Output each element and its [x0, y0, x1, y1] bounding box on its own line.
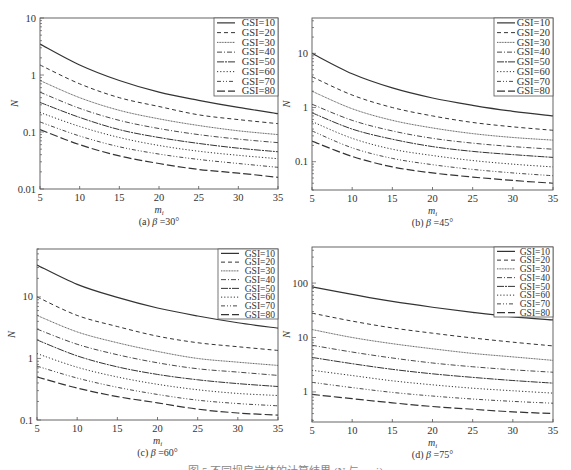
x-tick-label: 5 — [309, 425, 314, 436]
legend: GSI=10GSI=20GSI=30GSI=40GSI=50GSI=60GSI=… — [494, 17, 553, 96]
series-line: GSI=50 — [312, 357, 553, 383]
x-tick-label: 15 — [114, 192, 125, 203]
series-line: GSI=30 — [312, 330, 553, 361]
x-tick-label: 10 — [74, 192, 85, 203]
x-tick-label: 30 — [233, 192, 244, 203]
subplot-caption: (d) β =75° — [412, 449, 453, 461]
x-tick-label: 15 — [112, 423, 123, 434]
x-tick-label: 15 — [387, 193, 398, 204]
y-tick-label: 0.1 — [23, 127, 36, 138]
x-tick-label: 10 — [347, 425, 358, 436]
x-tick-label: 25 — [467, 193, 478, 204]
y-tick-label: 0.01 — [18, 184, 36, 195]
legend-label: GSI=80 — [520, 307, 551, 318]
legend-label: GSI=80 — [245, 309, 276, 320]
series-line: GSI=50 — [40, 102, 278, 151]
legend: GSI=10GSI=20GSI=30GSI=40GSI=50GSI=60GSI=… — [218, 248, 278, 320]
x-tick-label: 5 — [37, 192, 42, 203]
x-tick-label: 5 — [34, 423, 39, 434]
subplot-caption: (c) β =60° — [137, 447, 178, 459]
y-tick-label: 10 — [26, 13, 37, 24]
x-tick-label: 25 — [467, 425, 478, 436]
y-tick-label: 100 — [292, 278, 308, 289]
series-line: GSI=60 — [312, 122, 553, 167]
x-tick-label: 10 — [72, 423, 83, 434]
y-axis-label: N — [281, 330, 292, 339]
chart-a: GSI=10GSI=20GSI=30GSI=40GSI=50GSI=60GSI=… — [9, 13, 283, 229]
y-tick-label: 10 — [298, 332, 309, 343]
series-line: GSI=60 — [40, 112, 278, 158]
chart-c: GSI=10GSI=20GSI=30GSI=40GSI=50GSI=60GSI=… — [6, 248, 283, 459]
y-axis-label: N — [9, 99, 20, 108]
x-tick-label: 25 — [192, 423, 203, 434]
x-tick-label: 20 — [154, 192, 165, 203]
y-axis-label: N — [6, 330, 17, 339]
legend: GSI=10GSI=20GSI=30GSI=40GSI=50GSI=60GSI=… — [214, 17, 278, 96]
y-tick-label: 0.1 — [20, 415, 33, 426]
series-line: GSI=40 — [312, 345, 553, 372]
y-tick-label: 10 — [298, 48, 309, 59]
y-tick-label: 1 — [28, 353, 33, 364]
y-tick-label: 1 — [303, 102, 308, 113]
legend: GSI=10GSI=20GSI=30GSI=40GSI=50GSI=60GSI=… — [494, 246, 553, 318]
x-tick-label: 10 — [347, 193, 358, 204]
y-tick-label: 0.1 — [295, 156, 308, 167]
x-tick-label: 5 — [309, 193, 314, 204]
y-tick-label: 1 — [31, 70, 36, 81]
series-line: GSI=80 — [37, 377, 278, 415]
figure-caption: 图 5 不同坝肩岩体的计算结果 (N 与 m_i) — [0, 462, 571, 470]
series-line: GSI=70 — [312, 382, 553, 403]
series-line: GSI=50 — [312, 113, 553, 158]
series-line: GSI=80 — [312, 141, 553, 183]
x-tick-label: 35 — [273, 423, 284, 434]
legend-label: GSI=80 — [242, 85, 275, 96]
x-tick-label: 30 — [508, 425, 519, 436]
subplot-caption: (b) β =45° — [412, 217, 453, 229]
x-tick-label: 20 — [152, 423, 163, 434]
series-line: GSI=80 — [40, 130, 278, 178]
y-tick-label: 10 — [23, 291, 34, 302]
x-tick-label: 20 — [427, 425, 438, 436]
x-tick-label: 30 — [508, 193, 519, 204]
x-tick-label: 35 — [548, 193, 559, 204]
x-tick-label: 35 — [548, 425, 559, 436]
x-tick-label: 20 — [427, 193, 438, 204]
chart-d: GSI=10GSI=20GSI=30GSI=40GSI=50GSI=60GSI=… — [281, 246, 558, 461]
x-tick-label: 35 — [273, 192, 284, 203]
subplot-caption: (a) β =30° — [139, 216, 180, 228]
y-axis-label: N — [281, 100, 292, 109]
x-tick-label: 25 — [193, 192, 204, 203]
chart-b: GSI=10GSI=20GSI=30GSI=40GSI=50GSI=60GSI=… — [281, 17, 558, 229]
y-tick-label: 1 — [303, 386, 308, 397]
series-line: GSI=80 — [312, 394, 553, 413]
chart-panel-grid: GSI=10GSI=20GSI=30GSI=40GSI=50GSI=60GSI=… — [0, 0, 571, 470]
legend-label: GSI=80 — [517, 85, 550, 96]
x-tick-label: 30 — [233, 423, 244, 434]
series-line: GSI=20 — [312, 313, 553, 346]
x-tick-label: 15 — [387, 425, 398, 436]
figure: GSI=10GSI=20GSI=30GSI=40GSI=50GSI=60GSI=… — [0, 0, 571, 470]
